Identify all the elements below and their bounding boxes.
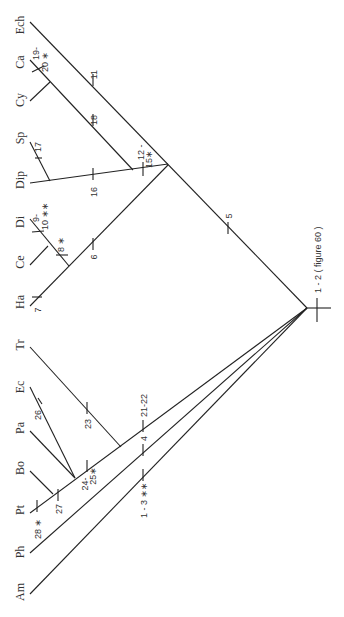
taxon-tr: Tr	[13, 340, 27, 351]
tick-9-10	[32, 231, 44, 232]
char-8: 8 ∗	[56, 237, 66, 252]
branch-cy	[30, 82, 50, 101]
char-24-25b: 25∗	[88, 467, 98, 485]
branch-ca	[30, 60, 133, 170]
taxon-dip: Dip	[13, 171, 27, 189]
char-21-22: 21-22	[139, 394, 149, 417]
taxon-di: Di	[13, 215, 27, 228]
branch-ph	[30, 308, 307, 553]
taxon-am: Am	[13, 582, 27, 601]
char-17: 17	[33, 142, 43, 152]
root-note: 1 - 2 ( figure 60 )	[313, 226, 323, 293]
taxon-ph: Ph	[13, 546, 27, 559]
char-16: 16	[89, 187, 99, 197]
character-labels: 19- 20 ∗ 11 18 17 16 12 - 15∗ 9- 10 ∗∗ 8…	[31, 47, 323, 539]
taxon-sp: Sp	[13, 132, 27, 145]
taxon-bo: Bo	[13, 461, 27, 475]
char-4: 4	[139, 436, 149, 441]
branch-ha	[30, 165, 168, 306]
char-19-20b: 20 ∗	[40, 52, 50, 72]
char-23: 23	[83, 419, 93, 429]
branch-pt	[30, 308, 307, 513]
taxon-labels: Ech Ca Cy Sp Dip Di Ce Ha Tr Ec Pa Bo Pt…	[13, 16, 27, 601]
char-7: 7	[33, 307, 43, 312]
char-12-15b: 15∗	[144, 150, 154, 168]
cladogram: Ech Ca Cy Sp Dip Di Ce Ha Tr Ec Pa Bo Pt…	[0, 0, 344, 617]
taxon-cy: Cy	[13, 93, 27, 107]
char-6: 6	[89, 254, 99, 259]
char-18: 18	[89, 115, 99, 125]
branch-am	[30, 308, 307, 594]
branches	[30, 22, 331, 594]
char-28: 28 ∗	[33, 519, 43, 539]
taxon-ec: Ec	[13, 381, 27, 394]
taxon-pa: Pa	[13, 421, 27, 434]
tick-26	[38, 398, 42, 404]
taxon-ca: Ca	[13, 55, 27, 69]
branch-bo	[30, 471, 53, 494]
branch-ce	[30, 246, 48, 265]
branch-pa	[30, 431, 75, 478]
character-ticks	[32, 66, 228, 512]
taxon-ha: Ha	[13, 294, 27, 309]
branch-tr	[30, 347, 121, 447]
char-1-3: 1 - 3 ∗∗	[139, 482, 149, 518]
char-26: 26	[33, 410, 43, 420]
taxon-ech: Ech	[13, 16, 27, 35]
char-5: 5	[224, 213, 234, 218]
branch-ech	[30, 22, 307, 308]
char-27: 27	[54, 504, 64, 514]
taxon-ce: Ce	[13, 255, 27, 268]
char-11: 11	[89, 70, 99, 79]
char-9-10b: 10 ∗∗	[40, 202, 50, 230]
branch-ec	[30, 387, 75, 478]
taxon-pt: Pt	[13, 504, 27, 515]
